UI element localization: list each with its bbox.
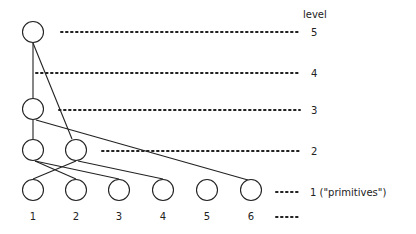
- primitive-label-5: 5: [204, 211, 210, 222]
- primitive-label-3: 3: [116, 211, 122, 222]
- level-label-3: 3: [311, 105, 317, 116]
- edge-l2b-p4: [78, 161, 163, 179]
- edge-l2a-p3: [35, 161, 119, 179]
- node-level-2-b: [66, 140, 87, 161]
- level-label-2: 2: [311, 146, 317, 157]
- node-primitive-4: [153, 180, 174, 201]
- node-primitive-1: [23, 180, 44, 201]
- primitive-label-4: 4: [160, 211, 166, 222]
- node-level-5: [23, 22, 44, 43]
- level-label-5: 5: [311, 27, 317, 38]
- node-primitive-5: [197, 180, 218, 201]
- node-primitive-3: [109, 180, 130, 201]
- hierarchy-diagram: level 5 4 3 2 1 ("primitives") 1 2 3 4 5…: [0, 0, 416, 234]
- node-level-3: [23, 99, 44, 120]
- primitive-label-2: 2: [73, 211, 79, 222]
- edges: [33, 43, 248, 180]
- node-primitive-6: [241, 180, 262, 201]
- primitive-label-6: 6: [248, 211, 254, 222]
- level-label-4: 4: [311, 68, 317, 79]
- level-label-1: 1 ("primitives"): [310, 187, 386, 198]
- primitive-label-1: 1: [30, 211, 36, 222]
- node-primitive-2: [66, 180, 87, 201]
- level-header: level: [303, 9, 327, 20]
- node-level-2-a: [23, 140, 44, 161]
